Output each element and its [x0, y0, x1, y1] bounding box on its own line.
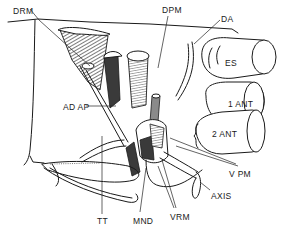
- head-capsule-top: [8, 19, 238, 33]
- head-capsule-back: [24, 20, 35, 165]
- dpm-muscle: [128, 56, 148, 108]
- anatomy-figure: DRM DPM DA ES 1 ANT AD AP 2 ANT V PM AXI…: [0, 0, 286, 234]
- label-axis: AXIS: [211, 192, 232, 201]
- label-ad-ap: AD AP: [63, 103, 90, 112]
- label-2-ant: 2 ANT: [212, 130, 237, 139]
- label-vrm: VRM: [170, 213, 190, 222]
- label-tt: TT: [97, 217, 108, 226]
- drm-muscle: [60, 28, 108, 90]
- dark-muscle: [104, 56, 120, 108]
- head-drawing: [0, 0, 286, 234]
- label-dpm: DPM: [162, 6, 182, 15]
- label-es: ES: [225, 59, 237, 68]
- label-drm: DRM: [13, 7, 33, 16]
- label-vpm: V PM: [229, 170, 251, 179]
- label-da: DA: [221, 15, 233, 24]
- label-mnd: MND: [133, 217, 153, 226]
- label-1-ant: 1 ANT: [228, 100, 253, 109]
